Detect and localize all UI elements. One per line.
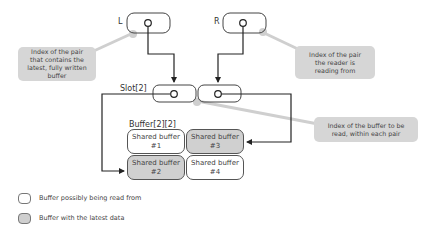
callout-right-text: Index of the pair the reader is reading … (295, 51, 375, 75)
callout-left: Index of the pair that contains the late… (18, 47, 96, 81)
l-index-label: L (118, 17, 122, 27)
legend-swatch-latest (18, 213, 31, 224)
buffer-2: Shared buffer #2 (127, 155, 185, 180)
callout-left-text: Index of the pair that contains the late… (18, 48, 96, 80)
buffer-3-title: Shared buffer (187, 133, 243, 142)
callout-right: Index of the pair the reader is reading … (295, 46, 375, 79)
legend-label-latest: Buffer with the latest data (39, 214, 124, 222)
callout-slot-text: Index of the buffer to be read, within e… (314, 122, 418, 138)
r-index-label: R (214, 17, 220, 27)
callout-leaders (85, 32, 318, 124)
buffer-4: Shared buffer #4 (186, 155, 244, 180)
buffer-1: Shared buffer #1 (127, 129, 185, 154)
legend-swatch-possibly-read (18, 193, 31, 204)
buffer-3: Shared buffer #3 (186, 129, 244, 154)
slot-label: Slot[2] (120, 84, 147, 94)
buffer-1-title: Shared buffer (128, 133, 184, 142)
buffer-3-num: #3 (187, 142, 243, 151)
buffer-2-num: #2 (128, 168, 184, 177)
buffer-4-num: #4 (187, 168, 243, 177)
buffer-4-title: Shared buffer (187, 159, 243, 168)
callout-slot: Index of the buffer to be read, within e… (314, 117, 418, 142)
legend-label-possibly-read: Buffer possibly being read from (39, 194, 141, 202)
buffer-1-num: #1 (128, 142, 184, 151)
buffer-2-title: Shared buffer (128, 159, 184, 168)
